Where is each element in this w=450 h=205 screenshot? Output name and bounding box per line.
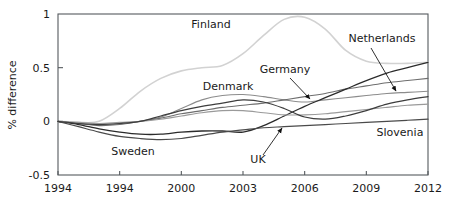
y-tick-label: -0.5 [29,169,50,182]
y-tick-label: 1 [43,8,50,21]
x-tick-label: 1994 [44,182,72,195]
y-tick-label: 0.5 [33,62,51,75]
y-tick-label: 0 [43,115,50,128]
x-tick-label: 1994 [106,182,134,195]
series-label-denmark: Denmark [203,80,254,93]
series-label-finland: Finland [191,18,230,31]
series-label-sweden: Sweden [111,145,154,158]
x-tick-label: 2003 [229,182,257,195]
chart-svg: -0.500.51 1994199420002003200620092012 %… [0,0,450,205]
x-tick-label: 2009 [352,182,380,195]
series-label-slovenia: Slovenia [377,126,424,139]
line-chart: -0.500.51 1994199420002003200620092012 %… [0,0,450,205]
x-tick-label: 2012 [414,182,442,195]
x-tick-label: 2006 [291,182,319,195]
y-axis-title: % difference [6,60,19,129]
series-label-germany: Germany [260,63,311,76]
x-tick-label: 2000 [167,182,195,195]
series-label-netherlands: Netherlands [348,32,415,45]
series-label-uk: UK [250,153,266,166]
